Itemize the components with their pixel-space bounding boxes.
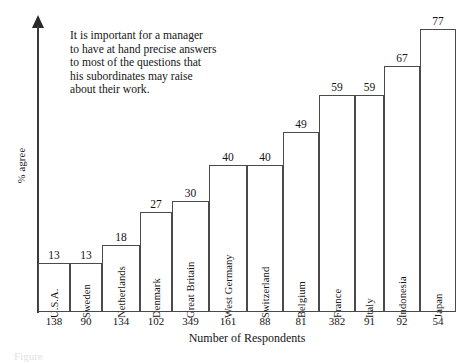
bar-value-label: 18 (102, 231, 140, 243)
bar-value-label: 40 (247, 151, 283, 163)
bar-respondent-count: 91 (355, 315, 384, 327)
bar-respondent-count: 382 (319, 315, 355, 327)
bar-italy (355, 95, 384, 311)
y-axis-label: % agree (16, 136, 27, 196)
bar-value-label: 67 (384, 52, 420, 64)
x-axis-title: Number of Respondents (38, 331, 456, 346)
bar-respondent-count: 81 (283, 315, 319, 327)
bar-value-label: 40 (209, 151, 247, 163)
bar-respondent-count: 349 (172, 315, 209, 327)
bar-category-label: West Germany (223, 254, 234, 318)
bar-category-label: Great Britain (185, 262, 196, 318)
bar-respondent-count: 90 (70, 315, 102, 327)
bar-value-label: 30 (172, 187, 209, 199)
bar-value-label: 59 (319, 81, 355, 93)
bar-indonesia (384, 66, 420, 311)
x-axis-line (38, 311, 456, 312)
bar-respondent-count: 161 (209, 315, 247, 327)
bar-value-label: 49 (283, 118, 319, 130)
plot-area: 13U.S.A.13813Sweden9018Netherlands13427D… (38, 12, 456, 314)
bar-category-label: Belgium (296, 281, 307, 318)
bar-respondent-count: 92 (384, 315, 420, 327)
bar-value-label: 59 (355, 81, 384, 93)
figure-caption-remnant: Figure (14, 350, 43, 362)
bar-respondent-count: 102 (140, 315, 172, 327)
bar-respondent-count: 134 (102, 315, 140, 327)
bar-value-label: 77 (420, 15, 456, 27)
bar-value-label: 27 (140, 198, 172, 210)
bar-category-label: France (332, 289, 343, 318)
bar-france (319, 95, 355, 311)
bar-category-label: U.S.A. (49, 289, 60, 318)
bar-category-label: Sweden (81, 284, 92, 318)
bar-respondent-count: 54 (420, 315, 456, 327)
bar-respondent-count: 138 (38, 315, 70, 327)
bar-value-label: 13 (70, 249, 102, 261)
bar-respondent-count: 88 (247, 315, 283, 327)
bar-value-label: 13 (38, 249, 70, 261)
bar-japan (420, 29, 456, 311)
